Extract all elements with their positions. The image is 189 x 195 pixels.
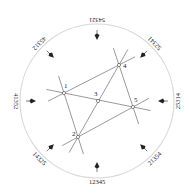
permutation-diagram: 12345 5432152341253142135412345143254135…: [0, 0, 189, 195]
arrow-inward-icon: [140, 144, 145, 149]
point-2-label: 2: [72, 130, 76, 138]
point-2-marker: [76, 135, 79, 138]
point-4-label: 4: [123, 62, 127, 70]
permutation-54321: 54321: [89, 17, 105, 40]
arrow-inward-icon: [30, 99, 37, 104]
permutation-label: 25314: [174, 92, 181, 109]
arrow-inward-icon: [140, 53, 145, 58]
permutation-25314: 25314: [158, 92, 181, 109]
arrow-inward-icon: [158, 99, 165, 104]
point-1-marker: [62, 91, 65, 94]
point-5-label: 5: [134, 96, 138, 104]
point-3-label: 3: [94, 90, 98, 98]
arrow-inward-icon: [95, 162, 100, 169]
point-1-label: 1: [64, 82, 68, 90]
point-3-marker: [96, 99, 99, 102]
permutation-label: 21354: [146, 150, 163, 167]
diagram-canvas: 12345 5432152341253142135412345143254135…: [0, 0, 189, 195]
permutation-21354: 21354: [140, 144, 163, 166]
arrow-inward-icon: [49, 53, 54, 58]
permutation-label: 54321: [89, 17, 105, 24]
permutation-label: 41352: [13, 93, 20, 109]
permutation-41352: 41352: [13, 93, 36, 109]
arrow-inward-icon: [95, 34, 100, 41]
permutation-label: 14325: [32, 150, 48, 166]
point-4-marker: [117, 63, 120, 66]
line-1-4: [48, 57, 135, 101]
point-5-marker: [131, 105, 134, 108]
permutation-label: 45312: [32, 36, 48, 52]
permutation-12345: 12345: [89, 162, 105, 185]
line-4-5: [113, 48, 138, 124]
line-2-5: [62, 98, 149, 145]
permutation-label: 12345: [89, 178, 105, 185]
line-1-2: [59, 76, 84, 154]
arrow-inward-icon: [49, 144, 54, 149]
permutation-label: 52341: [146, 36, 162, 52]
